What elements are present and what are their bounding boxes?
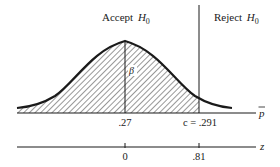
beta-label: β [128, 65, 134, 76]
p-bar-tick-label-critical: c = .291 [183, 117, 217, 128]
z-tick-label-0: 0 [122, 151, 127, 162]
p-bar-axis-label: p [258, 107, 265, 119]
accept-region-label: Accept H0 [102, 11, 150, 26]
z-axis-label: z [259, 140, 265, 152]
hypothesis-test-diagram: Accept H0 Reject H0 β .27 c = .291 p 0 .… [0, 0, 280, 167]
p-bar-tick-label-mean: .27 [118, 117, 131, 128]
z-tick-label-081: .81 [192, 151, 205, 162]
reject-region-label: Reject H0 [214, 11, 259, 26]
